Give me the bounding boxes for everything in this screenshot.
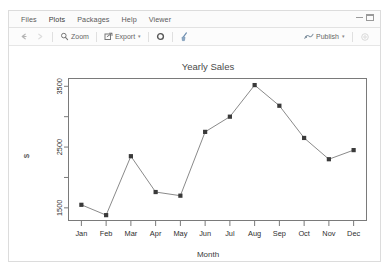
x-tick-label: Jan xyxy=(75,229,87,238)
plots-pane: Files Plots Packages Help Viewer xyxy=(8,10,381,262)
plot-canvas[interactable]: Yearly Sales $ Month 150025003500 JanFeb… xyxy=(9,46,380,261)
tab-viewer[interactable]: Viewer xyxy=(143,13,177,26)
maximize-icon[interactable] xyxy=(366,14,374,21)
export-button[interactable]: Export ▾ xyxy=(100,30,145,43)
zoom-label: Zoom xyxy=(71,33,89,40)
x-tick-label: Sep xyxy=(273,229,286,238)
data-point xyxy=(129,154,133,158)
gear-icon xyxy=(360,32,370,42)
export-label: Export xyxy=(115,33,135,40)
back-button[interactable] xyxy=(15,30,32,43)
data-point xyxy=(79,203,83,207)
x-tick-label: Jul xyxy=(225,229,235,238)
toolbar-separator xyxy=(352,32,353,42)
chevron-down-icon: ▾ xyxy=(342,34,345,39)
magnifier-icon xyxy=(60,32,69,41)
data-point xyxy=(302,136,306,140)
zoom-button[interactable]: Zoom xyxy=(56,30,93,43)
x-tick-label: Apr xyxy=(150,229,162,238)
publish-icon xyxy=(304,32,314,41)
sales-line xyxy=(81,85,353,215)
y-tick-label: 1500 xyxy=(56,200,65,216)
minimize-icon[interactable] xyxy=(356,17,363,19)
data-point xyxy=(327,157,331,161)
data-point xyxy=(154,190,158,194)
x-tick-label: Mar xyxy=(125,229,138,238)
toolbar-separator xyxy=(172,32,173,42)
remove-plot-icon xyxy=(156,32,165,41)
toolbar-separator xyxy=(148,32,149,42)
data-point xyxy=(104,213,108,217)
yearly-sales-line-chart: Yearly Sales $ Month 150025003500 JanFeb… xyxy=(9,46,380,261)
toolbar-separator xyxy=(96,32,97,42)
x-tick-label: Nov xyxy=(322,229,335,238)
tab-help[interactable]: Help xyxy=(116,13,143,26)
back-arrow-icon xyxy=(19,32,28,41)
y-axis-ticks: 150025003500 xyxy=(56,78,70,216)
tab-files[interactable]: Files xyxy=(15,13,43,26)
publish-button[interactable]: Publish ▾ xyxy=(300,30,349,43)
x-tick-label: Aug xyxy=(248,229,261,238)
x-tick-label: Feb xyxy=(100,229,113,238)
tab-packages[interactable]: Packages xyxy=(71,13,115,26)
x-axis-ticks: JanFebMarAprMayJunJulAugSepOctNovDec xyxy=(75,221,360,238)
forward-button[interactable] xyxy=(32,30,49,43)
data-point xyxy=(228,115,232,119)
y-tick-label: 3500 xyxy=(56,78,65,94)
export-icon xyxy=(104,32,113,41)
chart-title: Yearly Sales xyxy=(182,61,235,72)
data-point xyxy=(178,194,182,198)
x-tick-label: Oct xyxy=(298,229,310,238)
toolbar-separator xyxy=(52,32,53,42)
data-point xyxy=(253,83,257,87)
data-point xyxy=(352,148,356,152)
settings-button[interactable] xyxy=(356,30,374,43)
x-tick-label: Jun xyxy=(199,229,211,238)
chevron-down-icon: ▾ xyxy=(138,34,141,39)
forward-arrow-icon xyxy=(36,32,45,41)
publish-label: Publish xyxy=(316,33,339,40)
x-tick-label: May xyxy=(173,229,187,238)
remove-plot-button[interactable] xyxy=(152,30,169,43)
data-point xyxy=(277,104,281,108)
data-point xyxy=(203,130,207,134)
clear-plots-button[interactable] xyxy=(176,30,193,43)
sales-markers xyxy=(79,83,355,217)
y-tick-label: 2500 xyxy=(56,139,65,155)
window-controls xyxy=(356,14,374,21)
y-axis-label: $ xyxy=(22,153,31,158)
plots-toolbar: Zoom Export ▾ xyxy=(9,28,380,46)
x-axis-label: Month xyxy=(197,250,219,259)
tab-plots[interactable]: Plots xyxy=(43,13,71,26)
broom-icon xyxy=(180,32,189,42)
x-tick-label: Dec xyxy=(347,229,360,238)
pane-tabstrip: Files Plots Packages Help Viewer xyxy=(9,11,380,28)
toolbar-right-group: Publish ▾ xyxy=(300,28,374,45)
